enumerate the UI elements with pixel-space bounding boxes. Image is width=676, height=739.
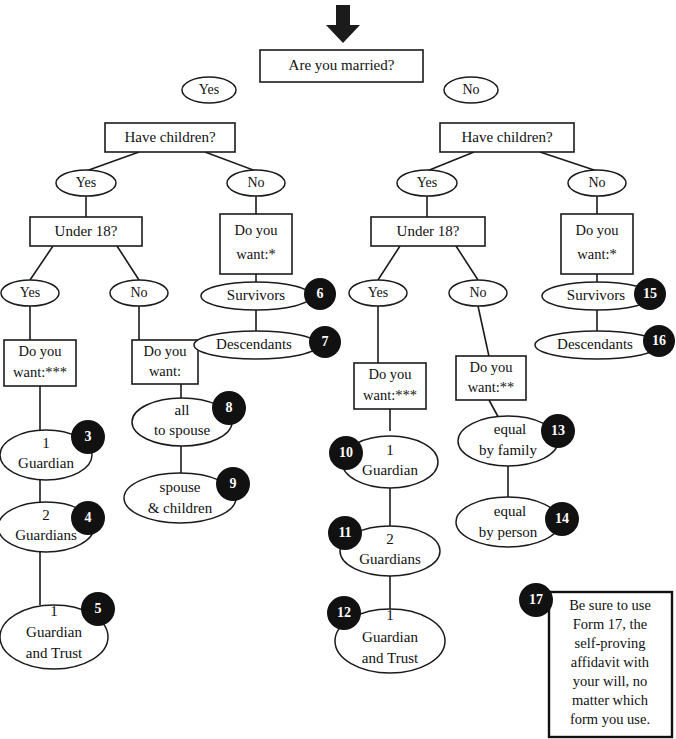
left-under18-no-label: No bbox=[130, 285, 147, 300]
marker-5-label: 5 bbox=[95, 601, 102, 616]
married-yes-label: Yes bbox=[199, 82, 219, 97]
marker-9-label: 9 bbox=[230, 476, 237, 491]
marker-15[interactable]: 15 bbox=[634, 278, 666, 310]
left-want-plain-box[interactable]: Do you want: bbox=[132, 340, 198, 384]
left-under18-box[interactable]: Under 18? bbox=[30, 217, 142, 246]
marker-8[interactable]: 8 bbox=[212, 391, 246, 425]
right-want-star-line1: Do you bbox=[575, 222, 618, 238]
note-line-4: affidavit with bbox=[571, 654, 650, 670]
note-line-3: self-proving bbox=[575, 635, 646, 651]
right-want-star-line2: want:* bbox=[577, 246, 616, 262]
right-guardian-trust-line1: 1 bbox=[386, 607, 394, 623]
right-under18-yes-ellipse[interactable]: Yes bbox=[349, 280, 407, 306]
left-guardian2-line2: Guardians bbox=[15, 527, 77, 543]
left-survivors-ellipse[interactable]: Survivors bbox=[201, 282, 311, 310]
marker-15-label: 15 bbox=[643, 286, 657, 301]
right-equal-person-line2: by person bbox=[479, 524, 538, 540]
marker-3[interactable]: 3 bbox=[71, 420, 105, 454]
right-want-triple-line2: want:*** bbox=[363, 387, 417, 403]
right-children-no-ellipse[interactable]: No bbox=[568, 170, 626, 196]
left-want-triple-line1: Do you bbox=[18, 343, 61, 359]
left-want-plain-line2: want: bbox=[149, 363, 181, 379]
right-have-children-box[interactable]: Have children? bbox=[440, 123, 574, 152]
marker-7-label: 7 bbox=[322, 334, 329, 349]
decision-tree-diagram: Are you married? Yes No Have children? Y… bbox=[0, 0, 676, 739]
left-descendants-ellipse[interactable]: Descendants bbox=[194, 331, 318, 359]
left-guardian-trust-line2: Guardian bbox=[26, 624, 82, 640]
right-guardian2-line1: 2 bbox=[386, 531, 394, 547]
left-children-yes-ellipse[interactable]: Yes bbox=[56, 170, 116, 196]
right-want-star-box[interactable]: Do you want:* bbox=[561, 214, 633, 274]
right-equal-person-line1: equal bbox=[494, 503, 526, 519]
marker-12-label: 12 bbox=[337, 605, 351, 620]
marker-7[interactable]: 7 bbox=[309, 326, 341, 358]
left-guardian-trust-line1: 1 bbox=[50, 603, 58, 619]
marker-13-label: 13 bbox=[551, 423, 565, 438]
marker-8-label: 8 bbox=[226, 400, 233, 415]
right-descendants-ellipse[interactable]: Descendants bbox=[535, 331, 659, 359]
left-want-star-box[interactable]: Do you want:* bbox=[220, 214, 292, 274]
left-all-to-spouse-line1: all bbox=[175, 402, 190, 418]
marker-4[interactable]: 4 bbox=[71, 501, 105, 535]
left-under18-no-ellipse[interactable]: No bbox=[110, 280, 168, 306]
right-under18-box[interactable]: Under 18? bbox=[371, 217, 485, 246]
left-guardian-trust-line3: and Trust bbox=[26, 645, 83, 661]
right-equal-by-person-ellipse[interactable]: equal by person bbox=[456, 497, 560, 547]
right-guardian-trust-line2: Guardian bbox=[362, 629, 418, 645]
marker-6[interactable]: 6 bbox=[304, 278, 336, 310]
left-children-yes-label: Yes bbox=[76, 175, 96, 190]
right-under18-label: Under 18? bbox=[397, 223, 460, 239]
left-under18-label: Under 18? bbox=[55, 223, 118, 239]
right-want-double-line2: want:** bbox=[468, 379, 515, 395]
right-guardian1-line2: Guardian bbox=[362, 462, 418, 478]
right-children-yes-ellipse[interactable]: Yes bbox=[397, 170, 457, 196]
right-have-children-label: Have children? bbox=[461, 129, 553, 145]
right-survivors-label: Survivors bbox=[567, 287, 626, 303]
marker-10-label: 10 bbox=[339, 445, 353, 460]
married-no-label: No bbox=[462, 82, 479, 97]
right-guardian1-line1: 1 bbox=[386, 442, 394, 458]
right-equal-family-line2: by family bbox=[479, 442, 537, 458]
right-guardian2-line2: Guardians bbox=[359, 551, 421, 567]
note-line-5: your will, no bbox=[573, 673, 648, 689]
marker-5[interactable]: 5 bbox=[81, 592, 115, 626]
marker-10[interactable]: 10 bbox=[329, 436, 363, 470]
left-spouse-children-line1: spouse bbox=[160, 479, 201, 495]
married-yes-ellipse[interactable]: Yes bbox=[182, 77, 236, 103]
right-children-yes-label: Yes bbox=[417, 175, 437, 190]
left-guardian1-line1: 1 bbox=[42, 435, 50, 451]
note-box[interactable]: Be sure to use Form 17, the self-proving… bbox=[549, 592, 672, 737]
left-want-star-line2: want:* bbox=[236, 246, 275, 262]
right-want-triple-line1: Do you bbox=[368, 366, 411, 382]
root-question-box[interactable]: Are you married? bbox=[260, 50, 423, 82]
left-want-triple-box[interactable]: Do you want:*** bbox=[4, 340, 76, 386]
marker-6-label: 6 bbox=[317, 286, 324, 301]
right-want-double-box[interactable]: Do you want:** bbox=[456, 356, 526, 400]
marker-12[interactable]: 12 bbox=[327, 596, 361, 630]
note-line-1: Be sure to use bbox=[569, 597, 651, 613]
marker-9[interactable]: 9 bbox=[216, 467, 250, 501]
left-survivors-label: Survivors bbox=[227, 287, 286, 303]
left-have-children-box[interactable]: Have children? bbox=[105, 123, 235, 152]
marker-3-label: 3 bbox=[85, 429, 92, 444]
married-no-ellipse[interactable]: No bbox=[444, 77, 498, 103]
marker-14[interactable]: 14 bbox=[545, 502, 579, 536]
left-want-triple-line2: want:*** bbox=[13, 364, 67, 380]
note-line-2: Form 17, the bbox=[573, 616, 648, 632]
left-have-children-label: Have children? bbox=[124, 129, 216, 145]
marker-16[interactable]: 16 bbox=[643, 325, 675, 357]
marker-4-label: 4 bbox=[85, 510, 92, 525]
marker-13[interactable]: 13 bbox=[541, 414, 575, 448]
right-want-double-line1: Do you bbox=[469, 359, 512, 375]
left-want-plain-line1: Do you bbox=[143, 343, 186, 359]
left-children-no-ellipse[interactable]: No bbox=[227, 170, 285, 196]
left-all-to-spouse-line2: to spouse bbox=[154, 422, 211, 438]
marker-11[interactable]: 11 bbox=[328, 516, 362, 550]
left-guardian1-line2: Guardian bbox=[18, 455, 74, 471]
left-under18-yes-ellipse[interactable]: Yes bbox=[1, 280, 59, 306]
right-want-triple-box[interactable]: Do you want:*** bbox=[354, 363, 426, 409]
right-under18-no-ellipse[interactable]: No bbox=[449, 280, 507, 306]
left-descendants-label: Descendants bbox=[216, 336, 292, 352]
marker-17[interactable]: 17 bbox=[519, 583, 553, 617]
left-guardian2-line1: 2 bbox=[42, 507, 50, 523]
